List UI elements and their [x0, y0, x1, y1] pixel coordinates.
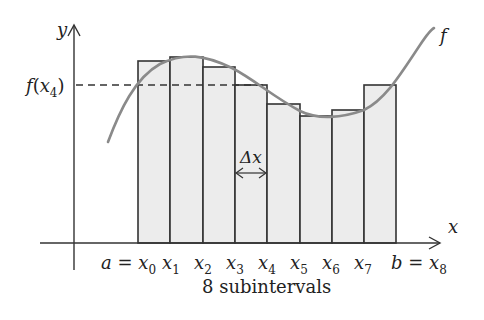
- tick-label-x5: x5: [290, 252, 308, 277]
- tick-label-x4: x4: [258, 252, 276, 277]
- rectangle-3: [203, 67, 235, 243]
- tick-label-x0: a = x0: [101, 252, 156, 277]
- riemann-sum-diagram: Δx y x f f(x4) a = x0 x1 x2 x3 x4 x5 x6 …: [0, 0, 484, 320]
- rectangle-7: [332, 110, 364, 243]
- tick-label-x1: x1: [162, 252, 180, 277]
- tick-label-x6: x6: [322, 252, 340, 277]
- tick-label-x8: b = x8: [391, 252, 447, 277]
- tick-labels: a = x0 x1 x2 x3 x4 x5 x6 x7 b = x8: [101, 252, 447, 277]
- y-axis-label: y: [56, 19, 68, 40]
- x-axis-label: x: [448, 216, 458, 237]
- caption: 8 subintervals: [202, 276, 331, 297]
- function-label: f: [438, 25, 450, 46]
- tick-label-x2: x2: [194, 252, 212, 277]
- delta-x-label: Δx: [239, 147, 262, 167]
- rectangle-6: [300, 116, 332, 243]
- rectangle-1: [138, 61, 170, 243]
- tick-label-x7: x7: [354, 252, 372, 277]
- rectangle-5: [267, 104, 300, 243]
- tick-label-x3: x3: [226, 252, 244, 277]
- f-x4-label: f(x4): [24, 75, 65, 100]
